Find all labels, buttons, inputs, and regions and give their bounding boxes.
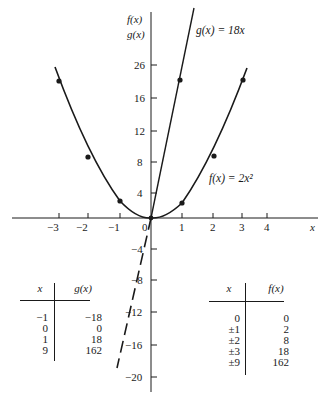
y-tick-label: −12 [125,306,142,318]
x-tick-label: 4 [264,221,270,233]
table-g-header-x: x [30,283,50,295]
y-axis-ticks [151,65,157,377]
x-tick-label: −1 [108,221,120,233]
table-f-divider [209,301,284,302]
table-f-row: ±9 [209,357,240,369]
x-tick-label: 1 [179,221,185,233]
x-tick-label: −2 [76,221,88,233]
point-f-neg2 [85,154,90,159]
table-f-header-x: x [219,283,239,295]
point-f-3 [240,77,245,82]
point-g-1 [177,77,182,82]
table-g-row: 9 [18,345,48,357]
table-f-column-divider [245,283,246,375]
y-tick-label: −20 [125,371,142,383]
point-f-2 [211,153,216,158]
table-g-header-gx: g(x) [68,283,98,295]
x-tick-label: −3 [47,221,59,233]
y-axis-label-f: f(x) [127,13,142,25]
table-g-row: −18 [62,312,102,324]
table-g-divider [20,300,90,301]
table-f-row: 0 [249,313,289,325]
table-f-header-fx: f(x) [261,283,291,295]
y-tick-label: 26 [134,59,145,71]
y-tick-label: −4 [131,243,143,255]
origin-label: 0 [142,221,148,233]
y-tick-label: 4 [137,187,143,199]
point-origin [149,216,154,221]
table-f: x f(x) 0 0 ±1 2 ±2 8 ±3 18 ±9 162 [209,283,289,378]
table-f-row: 2 [249,324,289,336]
y-tick-label: 12 [134,125,145,137]
y-axis-label-g: g(x) [127,28,145,40]
line-g-solid [151,8,194,218]
x-tick-label: 3 [239,221,245,233]
x-axis-label: x [310,221,315,233]
table-g-row: 162 [62,345,102,357]
point-f-1 [179,200,184,205]
point-f-neg1 [117,198,122,203]
g-function-label: g(x) = 18x [196,24,245,36]
table-g: x g(x) −1 −18 0 0 1 18 9 162 [18,283,98,363]
y-tick-label: 16 [134,92,145,104]
table-f-row: 162 [249,357,289,369]
x-tick-label: 2 [210,221,216,233]
point-f-neg3 [56,78,61,83]
f-function-label: f(x) = 2x² [209,172,253,184]
y-tick-label: −8 [131,274,143,286]
table-g-column-divider [54,283,55,361]
y-tick-label: 8 [137,156,143,168]
y-tick-label: −16 [125,339,142,351]
